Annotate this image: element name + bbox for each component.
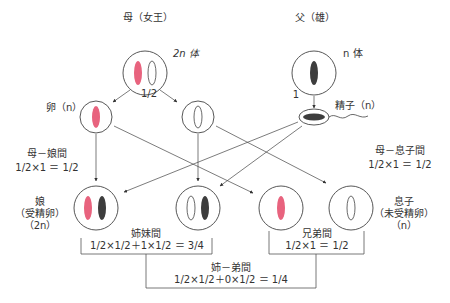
son-cell-a	[259, 186, 303, 230]
son-label-3: （n）	[384, 220, 424, 232]
daughter-cell-a	[74, 186, 118, 230]
father-ploidy: n 体	[343, 48, 373, 60]
egg-cell-maternal-a	[80, 101, 112, 133]
brothers-formula: 1/2×1 ＝ 1/2	[270, 240, 364, 252]
mother-daughter-title: 母－娘間	[12, 148, 82, 160]
mother-daughter-formula: 1/2×1 ＝ 1/2	[8, 162, 86, 174]
sisters-formula: 1/2×1/2＋1×1/2 ＝ 3/4	[82, 240, 212, 252]
egg-probability: 1/2	[136, 88, 162, 100]
arrow-egg-a-to-son-a	[114, 126, 253, 193]
mother-son-formula: 1/2×1 ＝ 1/2	[360, 159, 440, 171]
daughter-cell-b	[176, 186, 220, 230]
sister-brother-title: 姉－弟間	[196, 262, 266, 274]
arrow-mother-to-egg-left	[113, 90, 130, 102]
sperm-probability: 1	[290, 89, 302, 101]
sisters-title: 姉妹間	[116, 228, 176, 240]
mother-label: 母（女王）	[118, 12, 178, 24]
arrow-sperm-to-daughter-a	[124, 122, 298, 192]
mother-ploidy-text: 2n 体	[173, 48, 199, 59]
father-ploidy-text: n 体	[343, 48, 363, 59]
daughter-label-3: （2n）	[20, 220, 60, 232]
egg-cell-maternal-b	[182, 101, 214, 133]
son-label-1: 息子	[384, 196, 424, 208]
son-label-2: （未受精卵）	[372, 208, 436, 220]
father-label: 父（雄）	[290, 12, 340, 24]
brothers-title: 兄弟間	[287, 228, 347, 240]
daughter-label-2: （受精卵）	[12, 208, 68, 220]
arrow-mother-to-egg-right	[160, 90, 177, 102]
sperm-label: 精子（n）	[335, 100, 381, 112]
mother-son-title: 母－息子間	[360, 145, 440, 157]
sister-brother-formula: 1/2×1/2＋0×1/2 ＝ 1/4	[156, 274, 306, 286]
son-cell-b	[329, 186, 373, 230]
arrow-egg-b-to-son-b	[216, 126, 326, 183]
daughter-label-1: 娘	[20, 196, 60, 208]
egg-label: 卵（n）	[46, 102, 82, 114]
arrow-sperm-to-daughter-b	[220, 126, 302, 186]
mother-ploidy: 2n 体	[173, 48, 213, 60]
